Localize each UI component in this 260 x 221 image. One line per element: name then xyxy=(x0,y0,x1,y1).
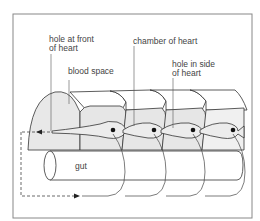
arrow-head-bottom xyxy=(74,194,80,199)
heart-diagram xyxy=(0,0,260,221)
label-hole-side: hole in side of heart xyxy=(172,60,215,78)
label-hole-front: hole at front of heart xyxy=(49,35,94,53)
gut xyxy=(44,151,243,180)
front-arch xyxy=(28,92,80,150)
label-chamber: chamber of heart xyxy=(133,37,197,46)
label-blood-space: blood space xyxy=(68,67,114,76)
label-gut: gut xyxy=(75,162,87,171)
